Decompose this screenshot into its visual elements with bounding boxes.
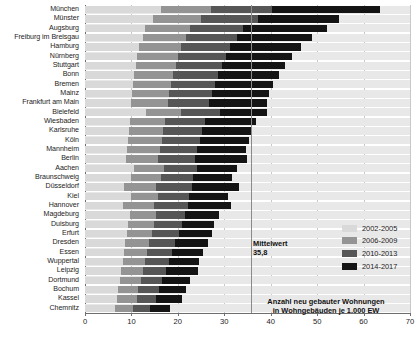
x-tick-label: 10 (127, 317, 135, 326)
bar-segment-2014-2017 (200, 137, 249, 145)
bar-segment-2014-2017 (202, 127, 251, 135)
bar-segment-2002-2005 (85, 305, 115, 313)
bar-segment-2014-2017 (209, 99, 267, 107)
bar-segment-2014-2017 (215, 81, 273, 89)
bar-segment-2014-2017 (159, 286, 186, 294)
bar-segment-2002-2005 (85, 174, 131, 182)
bar-segment-2002-2005 (85, 43, 139, 51)
bar-segment-2014-2017 (230, 43, 301, 51)
bar-segment-2010-2013 (211, 6, 272, 14)
bar-segment-2014-2017 (189, 193, 227, 201)
bar-segment-2002-2005 (85, 295, 117, 303)
stacked-bar (85, 230, 212, 238)
stacked-bar (85, 146, 246, 154)
bar-segment-2010-2013 (161, 174, 194, 182)
bar-segment-2006-2009 (131, 99, 168, 107)
stacked-bar (85, 90, 269, 98)
bar-segment-2010-2013 (145, 258, 169, 266)
bar-segment-2006-2009 (145, 25, 190, 33)
bar-segment-2010-2013 (154, 221, 182, 229)
bar-segment-2006-2009 (124, 183, 157, 191)
bar-segment-2014-2017 (258, 15, 339, 23)
legend-label: 2006-2009 (362, 236, 397, 245)
bar-segment-2002-2005 (85, 267, 121, 275)
stacked-bar (85, 25, 327, 33)
bar-segment-2014-2017 (226, 53, 291, 61)
bar-segment-2002-2005 (85, 202, 123, 210)
bar-segment-2010-2013 (149, 239, 175, 247)
bar-segment-2002-2005 (85, 230, 127, 238)
bar-segment-2006-2009 (125, 239, 149, 247)
bar-segment-2006-2009 (136, 62, 176, 70)
bar-segment-2014-2017 (205, 118, 256, 126)
bar-segment-2014-2017 (220, 109, 267, 117)
stacked-bar (85, 221, 214, 229)
bar-segment-2002-2005 (85, 99, 131, 107)
bar-segment-2006-2009 (139, 43, 181, 51)
bar-segment-2010-2013 (165, 118, 205, 126)
bar-segment-2010-2013 (169, 90, 212, 98)
bar-segment-2014-2017 (182, 221, 215, 229)
bar-segment-2006-2009 (120, 277, 141, 285)
bar-segment-2014-2017 (212, 90, 269, 98)
bar-segment-2014-2017 (169, 258, 199, 266)
chart-root: MünchenMünsterAugsburgFreiburg im Breisg… (0, 0, 419, 344)
bar-segment-2006-2009 (137, 53, 178, 61)
legend-item: 2002-2005 (342, 222, 416, 235)
bar-segment-2010-2013 (164, 165, 197, 173)
bar-segment-2002-2005 (85, 221, 128, 229)
stacked-bar (85, 174, 232, 182)
bar-segment-2006-2009 (118, 286, 138, 294)
stacked-bar (85, 62, 285, 70)
bar-segment-2014-2017 (150, 305, 170, 313)
bar-segment-2002-2005 (85, 258, 123, 266)
legend-swatch (342, 237, 357, 244)
bar-segment-2010-2013 (176, 62, 222, 70)
bar-segment-2014-2017 (175, 239, 208, 247)
mean-annotation-value: 35,8 (253, 248, 288, 257)
bar-segment-2014-2017 (218, 71, 278, 79)
stacked-bar (85, 155, 247, 163)
bar-segment-2006-2009 (123, 202, 155, 210)
stacked-bar (85, 193, 228, 201)
x-tick-30 (224, 313, 225, 316)
stacked-bar (85, 15, 339, 23)
x-tick-label: 20 (174, 317, 182, 326)
bar-segment-2014-2017 (185, 211, 219, 219)
stacked-bar (85, 6, 380, 14)
bar-segment-2002-2005 (85, 155, 126, 163)
stacked-bar (85, 239, 208, 247)
bar-segment-2010-2013 (156, 211, 185, 219)
bar-segment-2006-2009 (134, 71, 173, 79)
legend-item: 2006-2009 (342, 235, 416, 248)
bar-segment-2010-2013 (168, 99, 210, 107)
bar-segment-2002-2005 (85, 15, 153, 23)
y-axis-label: Chemnitz (49, 304, 79, 314)
x-tick-label: 50 (313, 317, 321, 326)
legend-item: 2010-2013 (342, 247, 416, 260)
bar-segment-2002-2005 (85, 90, 132, 98)
stacked-bar (85, 295, 182, 303)
bar-segment-2002-2005 (85, 62, 136, 70)
bar-segment-2006-2009 (127, 146, 160, 154)
bar-segment-2006-2009 (153, 15, 201, 23)
stacked-bar (85, 43, 301, 51)
bar-segment-2010-2013 (158, 155, 194, 163)
bar-segment-2006-2009 (129, 127, 164, 135)
bar-segment-2006-2009 (130, 211, 156, 219)
bar-segment-2010-2013 (190, 25, 243, 33)
bar-segment-2010-2013 (160, 146, 197, 154)
bar-segment-2006-2009 (130, 118, 166, 126)
bar-segment-2010-2013 (133, 305, 150, 313)
bar-segment-2010-2013 (171, 81, 215, 89)
bar-segment-2002-2005 (85, 34, 143, 42)
bar-segment-2010-2013 (181, 109, 220, 117)
bar-segment-2002-2005 (85, 71, 134, 79)
stacked-bar (85, 258, 199, 266)
bar-segment-2002-2005 (85, 137, 128, 145)
bar-segment-2010-2013 (173, 71, 218, 79)
bar-segment-2002-2005 (85, 6, 161, 14)
bar-segment-2006-2009 (131, 193, 159, 201)
bar-segment-2002-2005 (85, 53, 137, 61)
bar-segment-2006-2009 (134, 165, 164, 173)
